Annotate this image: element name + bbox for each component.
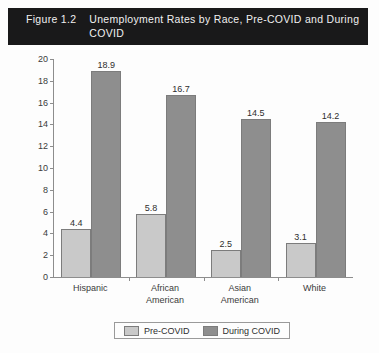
y-axis-tick-label: 16: [38, 98, 54, 108]
page-title: Unemployment Rates by Race, Pre-COVID an…: [89, 13, 368, 40]
y-axis-tick-label: 18: [38, 76, 54, 86]
y-axis-tick-label: 20: [38, 54, 54, 64]
y-axis-tick-label: 8: [43, 185, 54, 195]
bar-value-label: 18.9: [98, 60, 116, 70]
x-axis-tickmark: [204, 277, 205, 281]
legend-label: During COVID: [223, 326, 281, 336]
bar-groups: 4.418.95.816.72.514.53.114.2: [54, 59, 353, 277]
bar-group: 3.114.2: [278, 59, 353, 277]
title-row: Figure 1.2 Unemployment Rates by Race, P…: [26, 13, 368, 40]
x-axis-category-label: AfricanAmerican: [128, 283, 203, 306]
figure-title-band: Figure 1.2 Unemployment Rates by Race, P…: [8, 8, 368, 45]
bar-group: 5.816.7: [129, 59, 204, 277]
legend-entry[interactable]: Pre-COVID: [124, 326, 190, 336]
x-axis-labels: HispanicAfricanAmericanAsianAmericanWhit…: [53, 283, 352, 306]
y-axis-tick-label: 6: [43, 207, 54, 217]
y-axis-tick-label: 0: [43, 272, 54, 282]
x-axis-tickmark: [129, 277, 130, 281]
bar-group: 2.514.5: [204, 59, 279, 277]
bar-group: 4.418.9: [54, 59, 129, 277]
legend-swatch: [203, 326, 218, 336]
legend-label: Pre-COVID: [144, 326, 190, 336]
legend-entry[interactable]: During COVID: [203, 326, 281, 336]
bar-value-label: 3.1: [294, 232, 307, 242]
x-axis-category-label: White: [277, 283, 352, 306]
bar[interactable]: 14.2: [316, 122, 346, 277]
x-axis-category-label: AsianAmerican: [203, 283, 278, 306]
bar-value-label: 5.8: [145, 203, 158, 213]
y-axis-tick-label: 12: [38, 141, 54, 151]
bar[interactable]: 3.1: [286, 243, 316, 277]
x-axis-category-label: Hispanic: [53, 283, 128, 306]
bar-value-label: 14.5: [247, 108, 265, 118]
y-axis-tick-label: 4: [43, 228, 54, 238]
bar-value-label: 4.4: [70, 218, 83, 228]
bar[interactable]: 16.7: [166, 95, 196, 277]
bar-value-label: 16.7: [172, 84, 190, 94]
bar[interactable]: 4.4: [61, 229, 91, 277]
bar[interactable]: 14.5: [241, 119, 271, 277]
figure-container: Figure 1.2 Unemployment Rates by Race, P…: [0, 0, 379, 353]
x-axis-tickmark: [278, 277, 279, 281]
chart-legend: Pre-COVIDDuring COVID: [114, 322, 290, 339]
y-axis-tick-label: 10: [38, 163, 54, 173]
y-axis-tick-label: 2: [43, 250, 54, 260]
bar[interactable]: 18.9: [91, 71, 121, 277]
bar-value-label: 14.2: [322, 111, 340, 121]
bar-value-label: 2.5: [220, 239, 233, 249]
bar[interactable]: 5.8: [136, 214, 166, 277]
figure-number: Figure 1.2: [26, 13, 76, 27]
y-axis-tick-label: 14: [38, 119, 54, 129]
plot-area: 02468101214161820 4.418.95.816.72.514.53…: [53, 59, 353, 278]
legend-swatch: [124, 326, 139, 336]
bar[interactable]: 2.5: [211, 250, 241, 277]
